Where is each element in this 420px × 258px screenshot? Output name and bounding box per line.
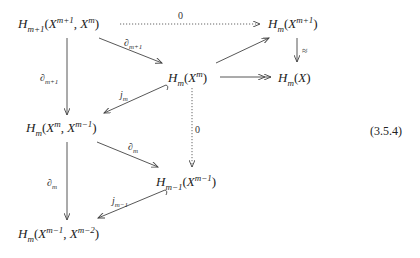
label-A-C: ∂m+1: [124, 38, 142, 51]
label-B-D: ≈: [302, 46, 308, 56]
label-E-F: ∂m: [128, 142, 138, 155]
node-E: Hm(Xm, Xm−1): [26, 121, 97, 134]
hook-C-E: [166, 85, 168, 90]
label-C-F: 0: [195, 125, 200, 135]
label-E-G: ∂m: [47, 178, 57, 191]
node-G: Hm(Xm−1, Xm−2): [18, 227, 99, 240]
arrow-C-E-inclusion: [104, 85, 166, 113]
label-C-E: jm: [120, 90, 128, 103]
node-C: Hm(Xm): [168, 71, 207, 84]
node-D: Hm(X): [278, 71, 311, 84]
arrow-C-B: [216, 38, 269, 63]
node-F: Hm−1(Xm−1): [156, 175, 216, 188]
node-A: Hm+1(Xm+1, Xm): [18, 17, 99, 30]
label-F-G: jm−1: [112, 196, 128, 209]
label-A-E: ∂m+1: [40, 73, 58, 86]
node-B: Hm(Xm+1): [268, 17, 318, 30]
arrow-F-G-inclusion: [98, 190, 165, 218]
equation-number: (3.5.4): [370, 124, 402, 139]
label-A-B: 0: [178, 11, 183, 21]
